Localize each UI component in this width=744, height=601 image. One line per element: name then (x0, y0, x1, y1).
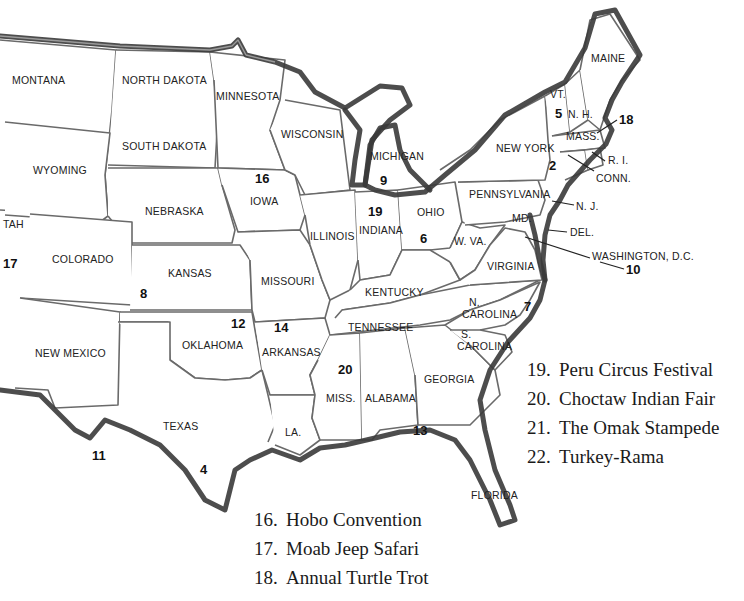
state-label-new-mexico: NEW MEXICO (35, 347, 106, 359)
event-marker-12: 12 (231, 316, 245, 331)
legend-item: 16.Hobo Convention (254, 505, 429, 534)
state-label-new-york: NEW YORK (496, 142, 555, 154)
legend-item: 20.Choctaw Indian Fair (527, 384, 719, 413)
legend-right: 19.Peru Circus Festival 20.Choctaw India… (527, 355, 719, 471)
event-marker-19: 19 (368, 204, 382, 219)
us-festival-map: MONTANANORTH DAKOTAMINNESOTAWISCONSINMIC… (0, 0, 744, 601)
event-marker-16: 16 (255, 171, 269, 186)
state-label-south-dakota: SOUTH DAKOTA (122, 140, 206, 152)
event-marker-20: 20 (338, 362, 352, 377)
event-marker-17: 17 (3, 256, 17, 271)
state-label-texas: TEXAS (163, 420, 198, 432)
state-label-florida: FLORIDA (471, 489, 518, 501)
legend-item: 18.Annual Turtle Trot (254, 563, 429, 592)
event-marker-8: 8 (140, 286, 147, 301)
state-label-louisiana: LA. (285, 426, 301, 438)
event-marker-13: 13 (413, 423, 427, 438)
event-marker-5: 5 (555, 106, 562, 121)
state-label-virginia: VIRGINIA (487, 260, 535, 272)
state-label-pennsylvania: PENNSYLVANIA (469, 188, 550, 200)
state-label-new-hampshire: N. H. (568, 108, 593, 120)
state-label-utah: TAH (3, 218, 24, 230)
event-marker-10: 10 (626, 262, 640, 277)
event-marker-2: 2 (549, 158, 556, 173)
state-label-vermont: VT. (550, 88, 566, 100)
state-label-delaware: DEL. (570, 226, 594, 238)
state-label-mississippi: MISS. (326, 392, 356, 404)
event-marker-6: 6 (420, 231, 427, 246)
state-label-maryland: MD. (512, 212, 532, 224)
state-label-montana: MONTANA (12, 74, 65, 86)
legend-item: 17.Moab Jeep Safari (254, 534, 429, 563)
state-label-nebraska: NEBRASKA (145, 205, 204, 217)
state-label-kentucky: KENTUCKY (365, 286, 424, 298)
event-marker-7: 7 (524, 299, 531, 314)
state-label-illinois: ILLINOIS (310, 230, 355, 242)
state-label-west-virginia: W. VA. (454, 235, 487, 247)
state-label-ohio: OHIO (417, 206, 445, 218)
event-marker-18: 18 (619, 112, 633, 127)
legend-item: 21.The Omak Stampede (527, 413, 719, 442)
state-label-maine: MAINE (591, 52, 625, 64)
state-label-north-dakota: NORTH DAKOTA (122, 74, 207, 86)
state-label-south-carolina-2: CAROLINA (457, 340, 512, 352)
state-label-connecticut: CONN. (596, 172, 631, 184)
state-label-massachusetts: MASS. (566, 130, 600, 142)
legend-item: 19.Peru Circus Festival (527, 355, 719, 384)
legend-item: 22.Turkey-Rama (527, 442, 719, 471)
state-label-alabama: ALABAMA (365, 392, 416, 404)
state-label-rhode-island: R. I. (608, 154, 628, 166)
state-label-georgia: GEORGIA (424, 373, 474, 385)
state-label-kansas: KANSAS (168, 267, 212, 279)
state-label-missouri: MISSOURI (261, 275, 315, 287)
state-label-oklahoma: OKLAHOMA (182, 339, 243, 351)
state-label-tennessee: TENNESSEE (348, 321, 413, 333)
state-label-indiana: INDIANA (359, 224, 403, 236)
event-marker-4: 4 (200, 462, 208, 477)
event-marker-9: 9 (380, 173, 387, 188)
legend-bottom: 16.Hobo Convention 17.Moab Jeep Safari 1… (254, 505, 429, 592)
state-label-north-carolina-2: CAROLINA (462, 308, 517, 320)
state-label-washington-dc: WASHINGTON, D.C. (592, 250, 694, 262)
event-marker-11: 11 (92, 448, 106, 463)
state-label-iowa: IOWA (250, 195, 278, 207)
state-label-north-carolina-1: N. (469, 296, 480, 308)
state-label-arkansas: ARKANSAS (262, 346, 321, 358)
state-label-new-jersey: N. J. (576, 200, 599, 212)
state-label-michigan: MICHIGAN (370, 150, 424, 162)
state-label-minnesota: MINNESOTA (216, 90, 279, 102)
state-label-south-carolina-1: S. (461, 328, 471, 340)
event-marker-14: 14 (274, 320, 289, 335)
state-label-wyoming: WYOMING (33, 164, 87, 176)
state-label-colorado: COLORADO (52, 253, 114, 265)
state-label-wisconsin: WISCONSIN (281, 128, 343, 140)
